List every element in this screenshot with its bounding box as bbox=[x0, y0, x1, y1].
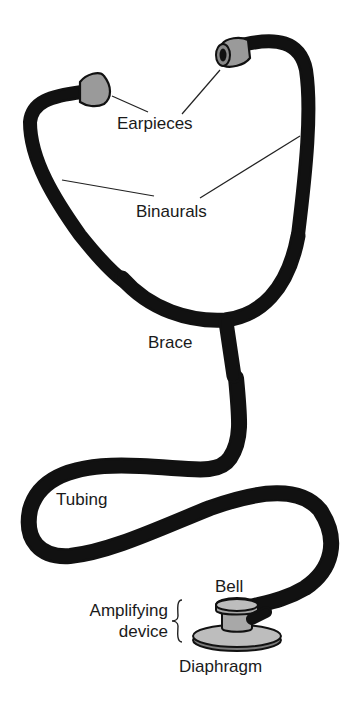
stethoscope-diagram: Earpieces Binaurals Brace Tubing Bell Am… bbox=[0, 0, 359, 706]
label-diaphragm: Diaphragm bbox=[179, 657, 262, 676]
label-amplifying: Amplifying bbox=[90, 601, 168, 620]
left-binaural bbox=[30, 92, 125, 282]
brace bbox=[122, 236, 298, 376]
curly-brace-icon bbox=[172, 600, 182, 642]
leader-binaural-right bbox=[200, 136, 300, 198]
leader-earpiece-right bbox=[182, 70, 220, 114]
left-earpiece bbox=[80, 73, 110, 106]
label-binaurals: Binaurals bbox=[136, 202, 207, 221]
right-earpiece bbox=[216, 38, 250, 67]
right-binaural bbox=[246, 41, 308, 235]
label-earpieces: Earpieces bbox=[117, 114, 193, 133]
leader-earpiece-left bbox=[112, 96, 148, 112]
leader-binaural-left bbox=[62, 180, 154, 196]
label-bell: Bell bbox=[215, 577, 243, 596]
label-device: device bbox=[119, 622, 168, 641]
label-brace: Brace bbox=[148, 333, 192, 352]
label-tubing: Tubing bbox=[56, 490, 107, 509]
